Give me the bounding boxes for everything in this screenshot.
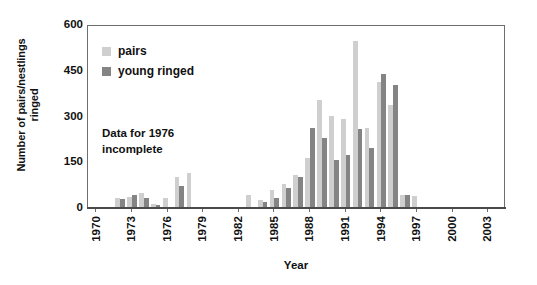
bar-young-ringed-1989	[322, 138, 327, 207]
x-axis-tick-label: 1976	[161, 216, 173, 242]
x-axis-tick-label: 1994	[374, 216, 386, 242]
legend-item-pairs: pairs	[102, 42, 282, 60]
bar-young-ringed-1974	[144, 198, 149, 207]
bar-pairs-1978	[187, 173, 192, 207]
y-axis-tick-450: 450	[43, 65, 83, 76]
x-axis-tick-2003: 2003	[465, 209, 509, 237]
bar-pairs-1983	[246, 195, 251, 207]
x-axis-tick-label: 1991	[339, 216, 351, 242]
legend-swatch-young-ringed-icon	[102, 67, 111, 76]
bar-young-ringed-1972	[120, 199, 125, 207]
x-axis-tick-labels: 1970197319761979198219851988199119941997…	[0, 209, 537, 255]
legend-label-young-ringed: young ringed	[118, 65, 194, 77]
legend-label-pairs: pairs	[118, 45, 147, 57]
y-axis-tick-300: 300	[43, 111, 83, 122]
legend-swatch-pairs-icon	[102, 47, 111, 56]
y-axis-title-line1: Number of pairs/nestlings	[15, 38, 27, 171]
bar-young-ringed-1996	[405, 195, 410, 207]
chart-legend: pairs young ringed	[102, 42, 282, 82]
bar-pairs-1976	[163, 198, 168, 207]
x-axis-tick-label: 1979	[196, 216, 208, 242]
x-axis-tick-label: 1970	[89, 216, 101, 242]
bar-young-ringed-1973	[132, 195, 137, 207]
bar-young-ringed-1990	[334, 160, 339, 207]
bar-pairs-1997	[412, 196, 417, 207]
bar-young-ringed-1992	[358, 129, 363, 207]
bar-young-ringed-1994	[381, 74, 386, 207]
y-axis-tick-600: 600	[43, 19, 83, 30]
legend-item-young-ringed: young ringed	[102, 62, 282, 80]
annotation-line1: Data for 1976	[102, 127, 174, 139]
bar-young-ringed-1986	[286, 188, 291, 207]
bar-young-ringed-1993	[369, 148, 374, 207]
chart-annotation: Data for 1976 incomplete	[102, 125, 174, 157]
x-axis-tick-label: 1997	[410, 216, 422, 242]
x-axis-tick-label: 1973	[125, 216, 137, 242]
x-axis-tick-label: 2003	[481, 216, 493, 242]
annotation-line2: incomplete	[102, 141, 174, 157]
x-axis-tick-label: 1985	[267, 216, 279, 242]
y-axis-tick-150: 150	[43, 156, 83, 167]
bar-young-ringed-1988	[310, 128, 315, 207]
x-axis-title: Year	[87, 259, 505, 271]
chart-figure: Number of pairs/nestlings ringed 6004503…	[0, 0, 537, 285]
bar-young-ringed-1977	[179, 186, 184, 207]
bar-young-ringed-1995	[393, 85, 398, 207]
x-axis-tick-label: 2000	[446, 216, 458, 242]
bar-young-ringed-1987	[298, 177, 303, 207]
bar-young-ringed-1985	[274, 198, 279, 207]
bar-young-ringed-1991	[346, 155, 351, 207]
x-axis-tick-label: 1982	[232, 216, 244, 242]
x-axis-tick-label: 1988	[303, 216, 315, 242]
